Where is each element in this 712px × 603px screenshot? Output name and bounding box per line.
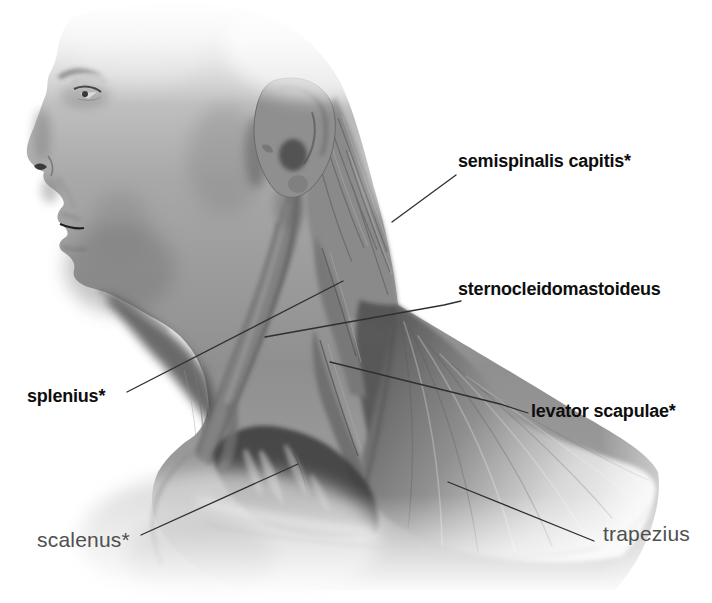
label-sternocleidomastoideus: sternocleidomastoideus (458, 279, 661, 300)
figure-head-neck-muscles: semispinalis capitis* sternocleidomastoi… (0, 0, 712, 603)
label-levator-scapulae: levator scapulae* (531, 401, 676, 422)
head-neck-illustration (0, 0, 712, 603)
label-splenius: splenius* (27, 386, 105, 407)
label-trapezius: trapezius (603, 522, 690, 545)
label-scalenus: scalenus* (37, 528, 130, 551)
label-semispinalis-capitis: semispinalis capitis* (458, 151, 631, 172)
